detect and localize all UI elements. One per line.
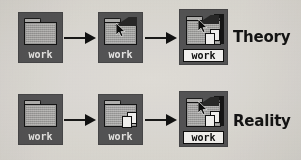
arrow-right-icon bbox=[145, 32, 178, 44]
arrow-right-icon bbox=[64, 114, 97, 126]
folder-body bbox=[24, 104, 57, 127]
arrow-right-icon bbox=[64, 32, 97, 44]
arrow-shaft bbox=[64, 37, 86, 39]
icon-label: work bbox=[19, 49, 62, 60]
arrow-head bbox=[85, 114, 96, 126]
folder-glyph bbox=[24, 100, 57, 127]
copied-pages-icon bbox=[122, 112, 138, 128]
icon-label: work bbox=[99, 49, 142, 60]
icon-label-selected: work bbox=[183, 49, 224, 62]
folder-body bbox=[24, 22, 57, 45]
row-caption-reality: Reality bbox=[233, 112, 291, 130]
theory-row: work work bbox=[0, 8, 301, 78]
arrow-shaft bbox=[145, 119, 167, 121]
reality-step-1-folder-icon[interactable]: work bbox=[19, 95, 62, 144]
arrow-head bbox=[166, 32, 177, 44]
icon-label: work bbox=[99, 131, 142, 142]
reality-row: work work bbox=[0, 90, 301, 160]
reality-step-2-folder-icon[interactable]: work bbox=[99, 95, 142, 144]
theory-step-3-folder-icon[interactable]: work bbox=[180, 10, 227, 64]
arrow-shaft bbox=[64, 119, 86, 121]
theory-step-2-folder-icon[interactable]: work bbox=[99, 13, 142, 62]
icon-label-selected: work bbox=[183, 131, 224, 144]
theory-step-1-folder-icon[interactable]: work bbox=[19, 13, 62, 62]
arrow-head bbox=[85, 32, 96, 44]
arrow-shaft bbox=[145, 37, 167, 39]
copied-pages-icon bbox=[205, 111, 221, 127]
folder-glyph bbox=[24, 18, 57, 45]
page-sheet-front bbox=[122, 116, 132, 128]
page-sheet-front bbox=[205, 33, 215, 45]
row-caption-theory: Theory bbox=[233, 28, 290, 46]
reality-step-3-folder-icon[interactable]: work bbox=[180, 92, 227, 146]
icon-label: work bbox=[19, 131, 62, 142]
arrow-head bbox=[166, 114, 177, 126]
mouse-cursor-icon bbox=[116, 23, 127, 37]
page-sheet-front bbox=[205, 115, 215, 127]
copied-pages-icon bbox=[205, 29, 221, 45]
arrow-right-icon bbox=[145, 114, 178, 126]
